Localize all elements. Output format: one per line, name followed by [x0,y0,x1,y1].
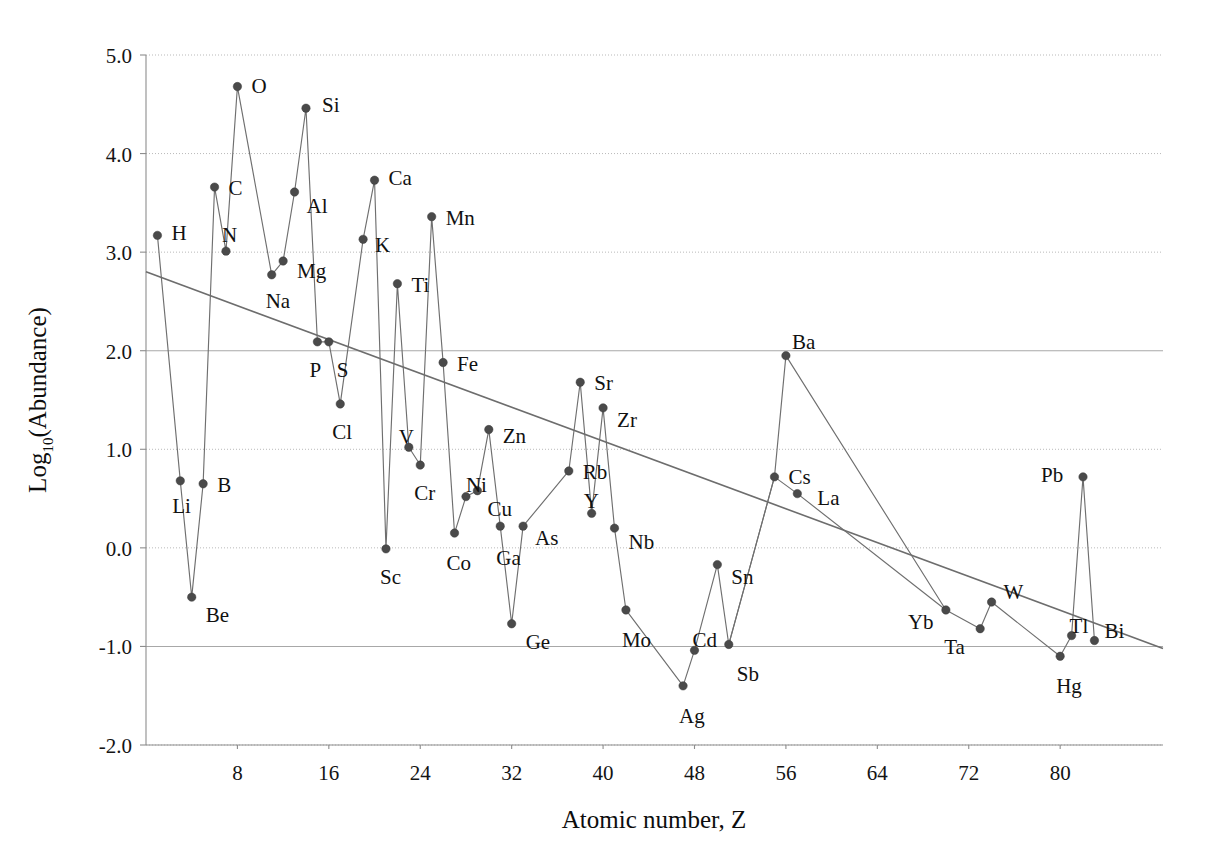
data-point-Zr [599,404,607,412]
data-point-Li [176,477,184,485]
data-point-K [359,235,367,243]
data-point-Cl [336,400,344,408]
y-axis-title-rest: (Abundance) [24,307,52,438]
point-label-Sb: Sb [737,662,759,686]
series-connector-lines [157,87,1094,686]
point-label-Ta: Ta [944,635,965,659]
data-point-Sn [713,560,721,568]
data-point-Mo [622,606,630,614]
data-point-Ge [507,620,515,628]
y-tick-5.0: 5.0 [106,44,132,68]
data-point-Hg [1056,652,1064,660]
x-axis-tick-labels: 8162432404856647280 [232,745,1070,785]
data-point-Ti [393,279,401,287]
point-label-Y: Y [584,489,599,513]
point-label-Ca: Ca [389,166,413,190]
point-label-H: H [171,221,186,245]
point-label-Na: Na [266,289,291,313]
data-point-P [313,338,321,346]
data-point-H [153,231,161,239]
x-tick-40: 40 [593,761,614,785]
data-point-Sb [725,640,733,648]
data-point-C [210,183,218,191]
point-label-P: P [309,358,321,382]
x-tick-48: 48 [684,761,705,785]
point-label-Li: Li [172,494,191,518]
point-label-W: W [1004,580,1024,604]
data-point-Ba [782,351,790,359]
y-tick-0.0: 0.0 [106,537,132,561]
point-label-Ba: Ba [792,330,816,354]
y-axis-title-main: Log [24,452,51,493]
point-label-Fe: Fe [457,352,478,376]
point-label-Co: Co [447,551,472,575]
data-point-Ca [370,176,378,184]
point-label-Mo: Mo [622,628,651,652]
y-tick-2.0: 2.0 [106,340,132,364]
y-tick-1.0: 1.0 [106,438,132,462]
point-label-V: V [399,425,414,449]
point-label-Ga: Ga [496,546,521,570]
point-label-N: N [222,223,237,247]
x-tick-56: 56 [775,761,796,785]
y-axis-title-text: Log10(Abundance) [24,307,56,493]
point-label-Ni: Ni [466,473,487,497]
data-point-O [233,82,241,90]
data-point-Zn [485,425,493,433]
x-tick-8: 8 [232,761,243,785]
data-point-Si [302,104,310,112]
point-label-Cu: Cu [487,497,512,521]
data-point-As [519,522,527,530]
y-axis-tick-labels: 5.04.03.02.01.00.0-1.0-2.0 [99,44,146,758]
series-segment-4 [523,471,569,526]
data-point-Bi [1090,636,1098,644]
point-label-Rb: Rb [583,460,608,484]
point-label-Pb: Pb [1041,463,1063,487]
point-label-K: K [375,233,390,257]
point-label-B: B [217,473,231,497]
data-point-Ag [679,682,687,690]
y-tick-3.0: 3.0 [106,241,132,265]
point-label-As: As [535,526,558,550]
point-label-C: C [229,176,243,200]
data-point-La [793,489,801,497]
point-label-Cr: Cr [414,481,435,505]
point-label-Cs: Cs [788,465,810,489]
point-label-S: S [337,358,349,382]
point-label-Zn: Zn [503,424,527,448]
point-label-Sc: Sc [380,565,401,589]
point-label-Cd: Cd [692,628,717,652]
y-tick-4.0: 4.0 [106,143,132,167]
x-tick-16: 16 [318,761,339,785]
data-point-Sr [576,378,584,386]
x-tick-32: 32 [501,761,522,785]
point-label-Al: Al [307,194,328,218]
x-tick-64: 64 [867,761,889,785]
point-label-Hg: Hg [1056,674,1082,698]
x-tick-80: 80 [1050,761,1071,785]
data-point-markers [153,82,1098,690]
data-point-Al [290,188,298,196]
x-axis-title: Atomic number, Z [562,806,746,833]
data-point-Rb [565,467,573,475]
y-tick--2.0: -2.0 [99,734,132,758]
data-point-Mg [279,257,287,265]
y-tick--1.0: -1.0 [99,635,132,659]
point-label-Bi: Bi [1104,619,1124,643]
point-label-Ag: Ag [679,704,705,728]
data-point-Cr [416,461,424,469]
point-label-Sn: Sn [731,565,754,589]
point-label-Cl: Cl [332,420,352,444]
point-label-Mg: Mg [297,259,327,283]
point-label-Si: Si [322,93,340,117]
point-label-Be: Be [206,603,229,627]
data-point-W [987,598,995,606]
data-point-N [222,247,230,255]
data-point-Cs [770,473,778,481]
data-point-Nb [610,524,618,532]
point-label-Yb: Yb [908,610,934,634]
chart-container: HLiBeBCNONaMgAlSiPSClKCaScTiVCrMnFeCoNiC… [0,0,1206,865]
point-label-Ti: Ti [411,273,429,297]
data-point-Ta [976,624,984,632]
data-point-Sc [382,545,390,553]
